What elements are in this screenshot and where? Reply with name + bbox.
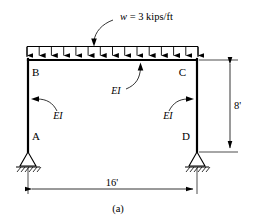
ei-beam-leader-line [126,68,141,89]
ei-label-beam: EI [110,85,121,96]
support-A-triangle [20,152,36,166]
ei-label-left-column: EI [52,110,63,121]
support-D-triangle [189,152,205,166]
ei-beam-arrowhead [138,63,144,71]
figure-caption: (a) [112,203,124,215]
node-label-C: C [179,66,186,78]
ei-right-arrowhead [186,96,194,102]
dimension-span-group: 16' [28,168,197,194]
dimension-height-label: 8' [234,100,241,111]
load-leader-line [94,20,113,41]
ei-left-arrowhead [31,96,39,102]
load-symbol: w [120,11,127,22]
ei-beam-group: EI [110,63,143,97]
ei-left-column-group: EI [31,96,63,121]
support-D [185,152,210,172]
node-label-D: D [182,130,190,142]
load-label: w = 3 kips/ft [120,11,173,22]
node-label-B: B [32,66,39,78]
figure-container: w = 3 kips/ft [0,0,264,219]
support-A-hatching [17,167,41,172]
support-A [16,152,41,172]
load-leader-arrowhead [91,39,97,47]
ei-right-column-group: EI [162,96,194,121]
load-label-group: w = 3 kips/ft [91,11,173,47]
distributed-load [27,47,198,58]
frame-diagram: w = 3 kips/ft [0,0,264,219]
dimension-span-label: 16' [106,177,119,188]
ei-label-right-column: EI [162,110,173,121]
load-arrows [27,47,198,56]
node-label-A: A [32,130,40,142]
dimension-height-group: 8' [199,60,241,152]
support-D-hatching [186,167,210,172]
